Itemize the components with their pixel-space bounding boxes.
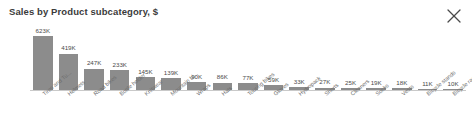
category-label-cell: Cleaners: [338, 91, 364, 125]
bar-column[interactable]: 18K: [389, 26, 415, 90]
bar-column[interactable]: 77K: [235, 26, 261, 90]
bar-value-label: 623K: [36, 28, 50, 34]
category-label-cell: Hats: [209, 91, 235, 125]
bar-column[interactable]: 25K: [338, 26, 364, 90]
bar-value-label: 233K: [113, 62, 127, 68]
bar-value-label: 419K: [61, 45, 75, 51]
category-label-cell: Gloves: [261, 91, 287, 125]
category-label-cell: Hydropack: [286, 91, 312, 125]
category-label-cell: Shorts: [312, 91, 338, 125]
bar-column[interactable]: 86K: [209, 26, 235, 90]
close-icon[interactable]: [444, 6, 464, 26]
category-label-cell: Socks: [363, 91, 389, 125]
category-label-cell: Bicycle stands: [415, 91, 441, 125]
bar-value-label: 77K: [242, 75, 253, 81]
bar-column[interactable]: 33K: [286, 26, 312, 90]
chart-title: Sales by Product subcategory, $: [9, 6, 158, 17]
sales-by-subcategory-chart-card: Sales by Product subcategory, $ 623K419K…: [0, 0, 472, 125]
bar-column[interactable]: 11K: [415, 26, 441, 90]
bar-column[interactable]: 623K: [30, 26, 56, 90]
bar-value-label: 25K: [345, 80, 356, 86]
bar-value-label: 139K: [164, 70, 178, 76]
category-label-cell: Bicycle racks: [440, 91, 466, 125]
category-label-cell: Tires and Tu...: [30, 91, 56, 125]
bar-rect[interactable]: [33, 36, 52, 90]
category-label-cell: Wraps: [184, 91, 210, 125]
bar-value-label: 33K: [294, 79, 305, 85]
bar-column[interactable]: 247K: [81, 26, 107, 90]
category-label-cell: Knitwear: [133, 91, 159, 125]
bars-row: 623K419K247K233K145K139K90K86K77K59K33K2…: [30, 26, 466, 90]
category-label-cell: Touring bikes: [235, 91, 261, 125]
category-label-cell: Bottle holder: [107, 91, 133, 125]
category-label-cell: Helmets: [56, 91, 82, 125]
bar-value-label: 19K: [371, 80, 382, 86]
bar-value-label: 247K: [87, 60, 101, 66]
category-label-cell: Mountain bi...: [158, 91, 184, 125]
bar-value-label: 18K: [396, 80, 407, 86]
category-labels-row: Tires and Tu...HelmetsRoad bikesBottle h…: [30, 91, 466, 125]
bar-value-label: 86K: [217, 74, 228, 80]
plot-area: 623K419K247K233K145K139K90K86K77K59K33K2…: [30, 26, 466, 125]
category-label-cell: Vests: [389, 91, 415, 125]
category-label-cell: Road bikes: [81, 91, 107, 125]
